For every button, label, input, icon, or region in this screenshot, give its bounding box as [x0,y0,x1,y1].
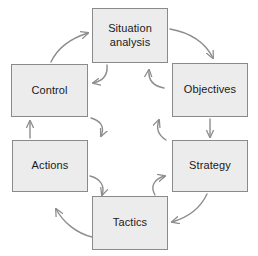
edge-tactics-actions [56,209,92,237]
edge-actions-tactics [90,176,103,195]
node-actions-label: Actions [29,159,72,173]
edge-strategy-tactics [172,194,207,222]
edge-tactics-strategy [153,176,165,195]
node-objectives-label: Objectives [181,83,239,97]
cycle-diagram: Situation analysis Objectives Strategy T… [0,0,258,256]
edge-situation-control [93,65,107,83]
node-control-label: Control [28,84,70,98]
node-control[interactable]: Control [11,64,88,117]
node-strategy[interactable]: Strategy [172,140,248,192]
edge-strategy-objectives [158,120,166,140]
node-actions[interactable]: Actions [12,140,88,192]
edge-control-actions [91,118,103,136]
edge-situation-objectives [170,29,213,58]
node-tactics[interactable]: Tactics [92,196,168,250]
node-tactics-label: Tactics [110,216,150,230]
edge-objectives-situation [149,70,164,88]
node-situation-analysis-label: Situation analysis [105,22,155,50]
node-objectives[interactable]: Objectives [172,63,248,117]
node-situation-analysis[interactable]: Situation analysis [92,8,168,63]
edge-control-situation [51,33,88,62]
node-strategy-label: Strategy [186,159,234,173]
